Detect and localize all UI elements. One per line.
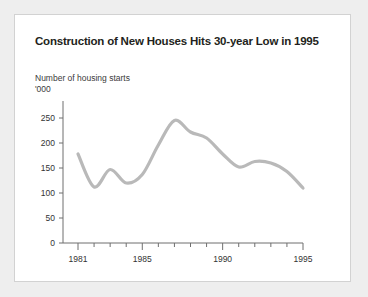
x-axis-tick-label: 1985: [133, 254, 152, 264]
y-axis-tick-label: 250: [41, 113, 55, 123]
x-axis: 1981198519901995: [63, 243, 313, 264]
x-axis-tick-label: 1995: [294, 254, 313, 264]
x-axis-tick-label: 1990: [213, 254, 232, 264]
y-axis: 050100150200250: [41, 101, 63, 248]
x-axis-ticks: [78, 243, 303, 250]
chart-panel: Construction of New Houses Hits 30-year …: [14, 14, 351, 282]
data-series-line: [78, 120, 303, 188]
y-axis-tick-label: 200: [41, 138, 55, 148]
x-axis-tick-labels: 1981198519901995: [69, 254, 313, 264]
y-axis-tick-label: 50: [46, 213, 56, 223]
line-chart-plot: 050100150200250 1981198519901995: [15, 15, 352, 283]
y-axis-tick-label: 100: [41, 188, 55, 198]
y-axis-tick-label: 150: [41, 163, 55, 173]
x-axis-tick-label: 1981: [69, 254, 88, 264]
y-axis-ticks: [59, 118, 63, 243]
y-axis-tick-label: 0: [50, 238, 55, 248]
y-axis-tick-labels: 050100150200250: [41, 113, 55, 248]
